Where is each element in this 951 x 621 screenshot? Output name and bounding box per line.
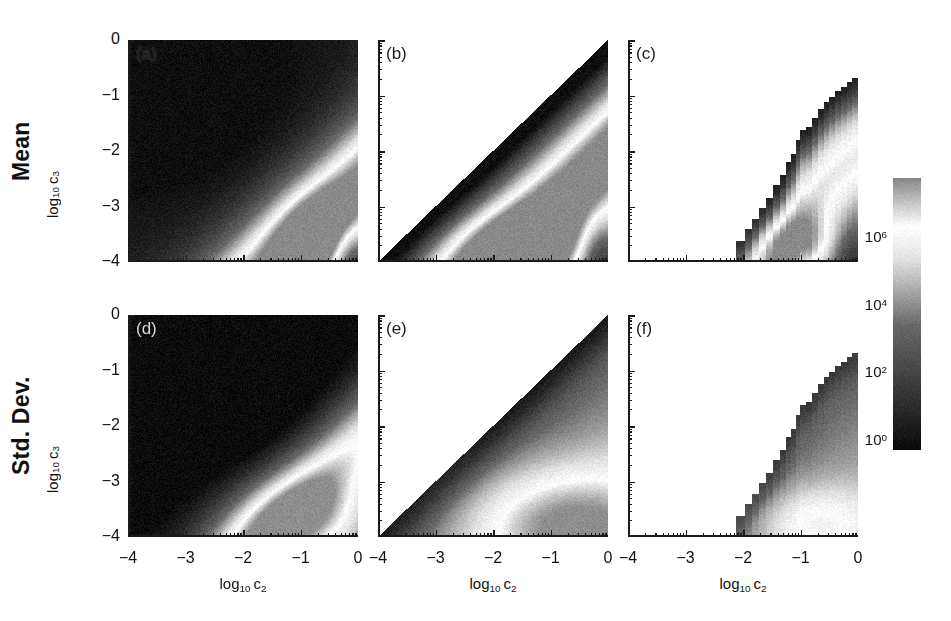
x-minor-tick xyxy=(177,258,178,262)
x-minor-tick xyxy=(548,258,549,262)
x-minor-tick xyxy=(430,258,431,262)
y-major-tick xyxy=(628,426,635,428)
y-minor-tick xyxy=(628,498,632,499)
y-minor-tick xyxy=(378,511,382,512)
y-minor-tick xyxy=(628,494,632,495)
x-minor-tick xyxy=(168,533,169,537)
y-axis-title: log10 c3 xyxy=(44,363,61,493)
x-minor-tick xyxy=(183,533,184,537)
x-minor-tick xyxy=(155,258,156,262)
x-minor-tick xyxy=(203,258,204,262)
x-minor-tick xyxy=(828,258,829,262)
y-minor-tick xyxy=(128,373,132,374)
x-minor-tick xyxy=(545,533,546,537)
x-minor-tick xyxy=(591,533,592,537)
y-minor-tick xyxy=(628,125,632,126)
y-minor-tick xyxy=(628,504,632,505)
y-minor-tick xyxy=(128,43,132,44)
x-minor-tick xyxy=(818,533,819,537)
x-minor-tick xyxy=(433,533,434,537)
y-minor-tick xyxy=(628,245,632,246)
x-minor-tick xyxy=(595,533,596,537)
y-minor-tick xyxy=(378,104,382,105)
x-minor-tick xyxy=(585,533,586,537)
x-minor-tick xyxy=(295,258,296,262)
panel-label: (a) xyxy=(136,44,157,64)
x-minor-tick xyxy=(292,533,293,537)
x-minor-tick xyxy=(345,258,346,262)
x-minor-tick xyxy=(677,258,678,262)
x-axis-title: log10 c2 xyxy=(378,575,608,594)
y-major-tick xyxy=(378,371,385,373)
x-minor-tick xyxy=(720,258,721,262)
x-minor-tick xyxy=(168,258,169,262)
x-minor-tick xyxy=(298,258,299,262)
y-minor-tick xyxy=(378,400,382,401)
x-minor-tick xyxy=(341,533,342,537)
x-major-tick xyxy=(628,530,630,537)
x-minor-tick xyxy=(720,533,721,537)
y-major-tick xyxy=(128,207,135,209)
x-minor-tick xyxy=(548,533,549,537)
y-axis-title: log10 c3 xyxy=(44,88,61,218)
x-minor-tick xyxy=(713,258,714,262)
x-minor-tick xyxy=(484,533,485,537)
y-minor-tick xyxy=(378,57,382,58)
x-minor-tick xyxy=(778,533,779,537)
x-minor-tick xyxy=(413,533,414,537)
x-minor-tick xyxy=(585,258,586,262)
heatmap-image xyxy=(628,40,858,262)
y-minor-tick xyxy=(628,69,632,70)
x-minor-tick xyxy=(528,533,529,537)
y-minor-tick xyxy=(128,125,132,126)
x-minor-tick xyxy=(145,258,146,262)
y-minor-tick xyxy=(628,387,632,388)
x-tick-label: −2 xyxy=(480,549,506,567)
y-minor-tick xyxy=(628,212,632,213)
x-minor-tick xyxy=(341,258,342,262)
x-tick-label: −3 xyxy=(173,549,199,567)
y-minor-tick xyxy=(378,52,382,53)
x-minor-tick xyxy=(173,258,174,262)
y-minor-tick xyxy=(128,98,132,99)
y-minor-tick xyxy=(378,168,382,169)
y-minor-tick xyxy=(628,163,632,164)
x-axis-title: log10 c2 xyxy=(128,575,358,594)
y-minor-tick xyxy=(628,393,632,394)
y-minor-tick xyxy=(128,387,132,388)
x-minor-tick xyxy=(423,533,424,537)
heatmap-image xyxy=(378,315,608,537)
x-axis-title: log10 c2 xyxy=(628,575,858,594)
x-minor-tick xyxy=(520,533,521,537)
x-minor-tick xyxy=(427,258,428,262)
y-minor-tick xyxy=(378,245,382,246)
x-major-tick xyxy=(628,255,630,262)
y-major-tick xyxy=(128,151,135,153)
y-minor-tick xyxy=(128,104,132,105)
x-minor-tick xyxy=(453,533,454,537)
y-minor-tick xyxy=(128,156,132,157)
y-minor-tick xyxy=(628,376,632,377)
x-minor-tick xyxy=(845,258,846,262)
y-minor-tick xyxy=(378,487,382,488)
y-minor-tick xyxy=(128,498,132,499)
x-minor-tick xyxy=(578,258,579,262)
y-minor-tick xyxy=(378,69,382,70)
y-minor-tick xyxy=(128,190,132,191)
x-minor-tick xyxy=(538,258,539,262)
x-minor-tick xyxy=(490,258,491,262)
x-minor-tick xyxy=(288,533,289,537)
y-minor-tick xyxy=(378,101,382,102)
x-minor-tick xyxy=(795,533,796,537)
x-minor-tick xyxy=(427,533,428,537)
x-major-tick xyxy=(551,530,553,537)
x-minor-tick xyxy=(237,533,238,537)
y-major-tick xyxy=(378,207,385,209)
y-minor-tick xyxy=(628,448,632,449)
y-minor-tick xyxy=(128,173,132,174)
x-major-tick xyxy=(436,530,438,537)
x-minor-tick xyxy=(183,258,184,262)
x-minor-tick xyxy=(226,533,227,537)
y-minor-tick xyxy=(128,108,132,109)
y-minor-tick xyxy=(378,383,382,384)
